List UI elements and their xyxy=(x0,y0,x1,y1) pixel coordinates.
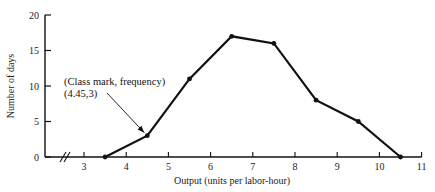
x-axis-title: Output (units per labor-hour) xyxy=(174,175,290,187)
annotation-value: (4.45,3) xyxy=(64,88,98,100)
y-tick-label: 0 xyxy=(34,152,39,163)
x-tick-label: 5 xyxy=(166,161,171,172)
frequency-polygon-chart: 05101520 34567891011 (Class mark, freque… xyxy=(0,0,435,192)
data-series xyxy=(103,34,403,160)
x-tick-label: 10 xyxy=(374,161,384,172)
x-tick-label: 8 xyxy=(293,161,298,172)
x-tick-label: 9 xyxy=(335,161,340,172)
data-point xyxy=(272,41,277,46)
x-tick-label: 11 xyxy=(417,161,427,172)
data-point xyxy=(229,34,234,39)
annotation-arrow xyxy=(107,93,144,133)
annotation: (Class mark, frequency)(4.45,3) xyxy=(64,76,166,133)
x-axis: 34567891011 xyxy=(45,152,426,172)
x-tick-label: 3 xyxy=(82,161,87,172)
x-tick-label: 7 xyxy=(250,161,255,172)
y-axis-title: Number of days xyxy=(5,54,16,119)
y-tick-label: 15 xyxy=(29,45,39,56)
data-point xyxy=(103,155,108,160)
data-point xyxy=(398,155,403,160)
x-tick-label: 4 xyxy=(124,161,129,172)
data-point xyxy=(187,77,192,82)
data-point xyxy=(145,133,150,138)
y-tick-label: 20 xyxy=(29,10,39,21)
annotation-label: (Class mark, frequency) xyxy=(64,76,166,88)
data-point xyxy=(356,119,361,124)
y-tick-label: 5 xyxy=(34,116,39,127)
y-axis: 05101520 xyxy=(29,10,51,163)
frequency-line xyxy=(105,36,400,157)
x-tick-label: 6 xyxy=(208,161,213,172)
data-point xyxy=(314,98,319,103)
y-tick-label: 10 xyxy=(29,81,39,92)
